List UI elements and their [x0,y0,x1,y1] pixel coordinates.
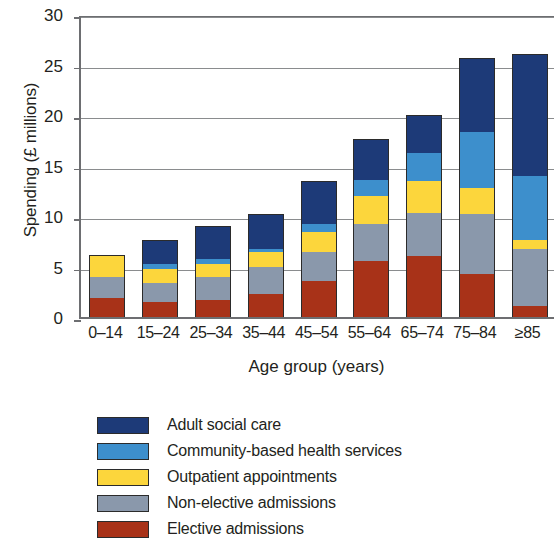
chart-legend: Adult social careCommunity-based health … [97,412,402,542]
bar-segment[interactable] [248,267,284,294]
bar-segment[interactable] [406,213,442,256]
bar-stack[interactable] [89,255,125,317]
bar-segment[interactable] [353,261,389,317]
bar-segment[interactable] [459,132,495,188]
x-tick-label: 35–44 [234,324,294,342]
x-tick-label: 45–54 [287,324,347,342]
bar-stack[interactable] [195,226,231,317]
legend-item[interactable]: Outpatient appointments [97,464,402,490]
bar-segment[interactable] [142,269,178,283]
legend-item[interactable]: Adult social care [97,412,402,438]
bar-segment[interactable] [89,277,125,298]
bar-segment[interactable] [301,252,337,280]
bar-segment[interactable] [406,181,442,213]
legend-swatch [97,417,149,434]
x-tick-label: 65–74 [392,324,452,342]
bar-segment[interactable] [248,294,284,317]
bar-stack[interactable] [459,58,495,317]
bar-segment[interactable] [195,277,231,300]
y-tick-label-30: 30 [23,7,63,24]
bar-segment[interactable] [195,300,231,317]
bar-segment[interactable] [248,214,284,249]
x-tick-label: ≥85 [498,324,554,342]
bar-segment[interactable] [406,256,442,317]
bar-segment[interactable] [459,274,495,317]
legend-swatch [97,521,149,538]
x-tick-label: 75–84 [445,324,505,342]
bar-segment[interactable] [353,180,389,196]
bar-segment[interactable] [512,54,548,175]
y-tick-label-0: 0 [23,310,63,327]
legend-label: Non-elective admissions [167,494,336,512]
bar-stack[interactable] [512,54,548,317]
x-tick-label: 0–14 [75,324,135,342]
legend-swatch [97,495,149,512]
bar-segment[interactable] [301,232,337,252]
y-tick-mark-30 [74,17,81,19]
bar-segment[interactable] [248,252,284,266]
bar-segment[interactable] [512,240,548,249]
bar-segment[interactable] [142,302,178,317]
bar-segment[interactable] [512,249,548,306]
legend-label: Community-based health services [167,442,402,460]
bar-segment[interactable] [406,115,442,153]
bar-segment[interactable] [142,240,178,263]
bar-segment[interactable] [512,176,548,241]
legend-item[interactable]: Community-based health services [97,438,402,464]
y-tick-label-20: 20 [23,108,63,125]
bar-segment[interactable] [353,139,389,179]
stacked-bar-chart-figure: Spending (£ millions) 051015202530 0–141… [0,0,554,553]
bar-segment[interactable] [459,58,495,132]
bar-segment[interactable] [89,298,125,317]
x-tick-label: 55–64 [339,324,399,342]
bar-segment[interactable] [459,188,495,214]
legend-item[interactable]: Non-elective admissions [97,490,402,516]
bar-stack[interactable] [353,139,389,317]
bar-segment[interactable] [301,281,337,317]
bar-stack[interactable] [406,115,442,317]
bar-segment[interactable] [353,224,389,261]
y-tick-mark-10 [74,219,81,221]
bar-stack[interactable] [142,240,178,317]
y-tick-label-5: 5 [23,260,63,277]
y-tick-mark-20 [74,118,81,120]
legend-swatch [97,469,149,486]
y-tick-mark-5 [74,270,81,272]
x-tick-label: 15–24 [128,324,188,342]
bar-segment[interactable] [406,153,442,180]
legend-swatch [97,443,149,460]
bar-stack[interactable] [248,214,284,317]
bar-stack[interactable] [301,181,337,317]
gridline-30 [81,17,554,18]
bar-segment[interactable] [195,264,231,277]
legend-label: Elective admissions [167,520,304,538]
legend-label: Outpatient appointments [167,468,337,486]
y-tick-label-25: 25 [23,58,63,75]
bar-segment[interactable] [512,306,548,317]
bar-segment[interactable] [195,226,231,259]
y-tick-label-10: 10 [23,209,63,226]
bar-segment[interactable] [89,255,125,276]
x-tick-label: 25–34 [181,324,241,342]
x-axis-title: Age group (years) [79,357,554,377]
legend-label: Adult social care [167,416,281,434]
y-tick-mark-25 [74,68,81,70]
bar-segment[interactable] [142,283,178,302]
bar-segment[interactable] [459,214,495,274]
bar-segment[interactable] [301,181,337,224]
plot-area [79,16,554,319]
y-tick-mark-15 [74,169,81,171]
bar-segment[interactable] [301,224,337,232]
bar-segment[interactable] [353,196,389,224]
y-tick-label-15: 15 [23,159,63,176]
y-tick-mark-0 [74,320,81,322]
legend-item[interactable]: Elective admissions [97,516,402,542]
